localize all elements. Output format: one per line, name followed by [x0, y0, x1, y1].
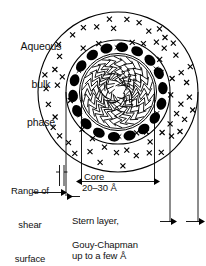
shear-surface-label: Range of shear surface	[2, 163, 58, 266]
counterion-mark	[107, 17, 112, 22]
counterion-mark	[114, 150, 119, 155]
aqueous-line-3: phase	[8, 116, 74, 129]
counterion-mark	[80, 127, 85, 132]
micelle-double-layer-figure: Aqueous bulk phase Range of shear surfac…	[0, 0, 206, 266]
counterion-mark	[102, 145, 107, 150]
counterion-mark	[162, 46, 167, 51]
core-label: Core	[84, 172, 104, 182]
counterion-mark	[81, 25, 86, 30]
surfactant-head-group	[78, 116, 93, 131]
aqueous-line-1: Aqueous	[8, 40, 74, 53]
counterion-mark	[157, 26, 162, 31]
counterion-mark	[159, 150, 164, 155]
gouy-chapman-label: Gouy-Chapman double layer, up to several…	[72, 216, 148, 266]
counterion-mark	[137, 20, 142, 25]
counterion-mark	[111, 26, 116, 31]
counterion-mark	[190, 108, 195, 113]
surfactant-head-group	[142, 53, 157, 68]
counterion-mark	[141, 41, 146, 46]
shear-line-1: Range of	[2, 185, 58, 196]
counterion-mark	[134, 153, 139, 158]
counterion-mark	[148, 139, 153, 144]
counterion-mark	[178, 129, 183, 134]
counterion-mark	[81, 46, 86, 51]
counterion-mark	[96, 41, 101, 46]
shear-line-3: surface	[2, 253, 58, 264]
aqueous-line-2: bulk	[8, 78, 74, 91]
counterion-mark	[163, 35, 168, 40]
counterion-mark	[147, 150, 152, 155]
counterion-mark	[94, 24, 99, 29]
counterion-mark	[188, 64, 193, 69]
counterion-mark	[173, 53, 178, 58]
counterion-mark	[178, 102, 183, 107]
counterion-mark	[120, 163, 125, 168]
gouy-line-1: Gouy-Chapman	[72, 239, 148, 251]
counterion-mark	[179, 70, 184, 75]
counterion-mark	[174, 111, 179, 116]
counterion-mark	[124, 148, 129, 153]
counterion-mark	[146, 29, 151, 34]
surfactant-head-group	[155, 97, 167, 111]
counterion-mark	[171, 41, 176, 46]
counterion-mark	[124, 17, 129, 22]
counterion-mark	[160, 130, 165, 135]
shear-line-2: shear	[2, 219, 58, 230]
counterion-mark	[170, 76, 175, 81]
counterion-mark	[168, 92, 173, 97]
counterion-mark	[187, 95, 192, 100]
counterion-mark	[184, 80, 189, 85]
counterion-mark	[98, 160, 103, 165]
surfactant-head-group	[158, 82, 169, 95]
counterion-mark	[88, 149, 93, 154]
counterion-mark	[154, 40, 159, 45]
surfactant-head-group	[99, 42, 113, 54]
counterion-mark	[182, 117, 187, 122]
aqueous-bulk-phase-label: Aqueous bulk phase	[8, 14, 74, 155]
